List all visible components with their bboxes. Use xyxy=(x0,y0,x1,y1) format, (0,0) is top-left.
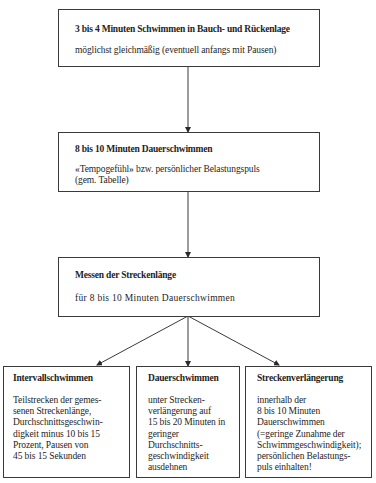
arrow-step3-to-extension xyxy=(188,316,279,365)
text-line: unter Strecken- xyxy=(148,395,225,406)
node-step2-title: 8 bis 10 Minuten Dauerschwimmen xyxy=(75,144,212,154)
node-option-extension-title: Streckenverlängerung xyxy=(257,373,343,383)
node-step2-text-line2: (gem. Tabelle) xyxy=(75,175,129,186)
node-option-endurance-title: Dauerschwimmen xyxy=(148,373,219,383)
text-line: (=geringe Zunahme der xyxy=(257,429,361,440)
text-line: Dauerschwimmen xyxy=(257,417,361,428)
node-step1-title: 3 bis 4 Minuten Schwimmen in Bauch- und … xyxy=(75,24,290,34)
node-option-interval-text: Teilstrecken der gemes- senen Streckenlä… xyxy=(13,395,103,462)
text-line: Durchschnittsgeschwin- xyxy=(13,417,103,428)
node-step3-text: für 8 bis 10 Minuten Dauerschwimmen xyxy=(75,293,235,304)
text-line: ausdehnen xyxy=(148,462,225,473)
node-step2-text-line1: «Tempogefühl» bzw. persönlicher Belastun… xyxy=(75,164,260,175)
text-line: Prozent, Pausen von xyxy=(13,440,103,451)
text-line: digkeit minus 10 bis 15 xyxy=(13,429,103,440)
node-step1-text: möglichst gleichmäßig (eventuell anfangs… xyxy=(75,45,276,56)
text-line: 15 bis 20 Minuten in xyxy=(148,417,225,428)
text-line: 8 bis 10 Minuten xyxy=(257,406,361,417)
node-step3-title: Messen der Streckenlänge xyxy=(75,270,176,280)
node-option-extension: Streckenverlängerung innerhalb der 8 bis… xyxy=(245,366,372,478)
text-line: puls einhalten! xyxy=(257,462,361,473)
text-line: senen Streckenlänge, xyxy=(13,406,103,417)
node-option-interval: Intervallschwimmen Teilstrecken der geme… xyxy=(3,366,130,478)
node-step1: 3 bis 4 Minuten Schwimmen in Bauch- und … xyxy=(58,9,320,67)
node-option-extension-text: innerhalb der 8 bis 10 Minuten Dauerschw… xyxy=(257,395,361,473)
text-line: geschwindigkeit xyxy=(148,451,225,462)
text-line: verlängerung auf xyxy=(148,406,225,417)
text-line: Durchschnitts- xyxy=(148,440,225,451)
node-step2: 8 bis 10 Minuten Dauerschwimmen «Tempoge… xyxy=(58,132,320,192)
node-option-endurance: Dauerschwimmen unter Strecken- verlänger… xyxy=(136,366,240,478)
text-line: geringer xyxy=(148,429,225,440)
arrow-step3-to-interval xyxy=(97,316,188,365)
node-step3: Messen der Streckenlänge für 8 bis 10 Mi… xyxy=(58,257,320,317)
node-option-endurance-text: unter Strecken- verlängerung auf 15 bis … xyxy=(148,395,225,473)
node-option-interval-title: Intervallschwimmen xyxy=(13,373,93,383)
text-line: innerhalb der xyxy=(257,395,361,406)
text-line: Teilstrecken der gemes- xyxy=(13,395,103,406)
text-line: persönlichen Belastungs- xyxy=(257,451,361,462)
text-line: Schwimmgeschwindigkeit); xyxy=(257,440,361,451)
text-line: 45 bis 15 Sekunden xyxy=(13,451,103,462)
